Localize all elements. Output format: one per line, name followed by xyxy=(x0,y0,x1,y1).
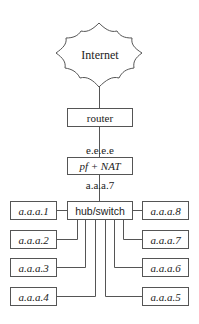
internet-label: Internet xyxy=(60,49,140,61)
external-ip-label: e.e.e.e xyxy=(60,145,140,156)
hub-switch-label: hub/switch xyxy=(75,205,125,217)
firewall-box: pf + NAT xyxy=(67,157,133,175)
host-label: a.a.a.6 xyxy=(150,262,180,274)
host-label: a.a.a.2 xyxy=(18,234,48,246)
host-label: a.a.a.4 xyxy=(18,291,48,303)
internal-ip-label: a.a.a.7 xyxy=(60,180,140,191)
router-box: router xyxy=(67,108,133,127)
firewall-label: pf + NAT xyxy=(79,160,120,172)
host-label: a.a.a.5 xyxy=(150,291,180,303)
host-box-left-2: a.a.a.2 xyxy=(10,230,57,249)
host-label: a.a.a.8 xyxy=(150,205,180,217)
host-label: a.a.a.3 xyxy=(18,262,48,274)
host-box-right-7: a.a.a.7 xyxy=(142,230,189,249)
host-box-left-1: a.a.a.1 xyxy=(10,201,57,220)
host-box-right-6: a.a.a.6 xyxy=(142,258,189,277)
host-box-left-4: a.a.a.4 xyxy=(10,287,57,306)
hub-switch-box: hub/switch xyxy=(67,201,133,220)
host-label: a.a.a.1 xyxy=(18,205,48,217)
host-box-left-3: a.a.a.3 xyxy=(10,258,57,277)
host-box-right-5: a.a.a.5 xyxy=(142,287,189,306)
host-label: a.a.a.7 xyxy=(150,234,180,246)
router-label: router xyxy=(87,112,113,124)
host-box-right-8: a.a.a.8 xyxy=(142,201,189,220)
